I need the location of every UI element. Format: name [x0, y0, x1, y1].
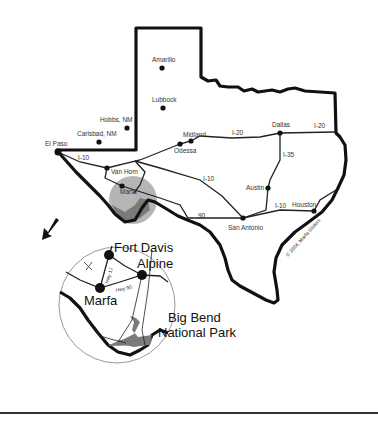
zoom-arrow-icon: [42, 218, 59, 240]
label-carlsbad: Carlsbad, NM: [77, 130, 117, 137]
label-i20-east: I-20: [314, 122, 326, 129]
label-amarillo: Amarillo: [152, 56, 176, 63]
label-hwy90: 90: [198, 212, 206, 219]
park-label-line2: National Park: [158, 325, 237, 340]
label-i10-east: I-10: [275, 202, 287, 209]
label-austin: Austin: [246, 184, 264, 191]
inset-label-marfa: Marfa: [84, 293, 118, 308]
label-midland: Midland: [183, 131, 206, 138]
label-i10-west: I-10: [78, 154, 90, 161]
bottom-rule: [0, 412, 378, 414]
inset-label-alpine: Alpine: [137, 256, 173, 271]
city-dot-fort-davis: [104, 250, 114, 260]
label-hobbs: Hobbs, NM: [100, 116, 133, 123]
label-houston: Houston: [292, 201, 317, 208]
i10-west-road: [58, 144, 180, 168]
texas-map: Amarillo Lubbock Hobbs, NM Carlsbad, NM …: [0, 0, 378, 422]
label-san-antonio: San Antonio: [228, 224, 263, 231]
park-label-line1: Big Bend: [168, 310, 221, 325]
label-i35: I-35: [283, 151, 295, 158]
city-dot-alpine: [137, 270, 147, 280]
label-marfa: Marfa: [120, 188, 137, 195]
label-odessa: Odessa: [174, 147, 197, 154]
label-lubbock: Lubbock: [152, 96, 177, 103]
city-dot-marfa-inset: [95, 283, 105, 293]
label-i10-central: I-10: [203, 175, 215, 182]
inset-label-fort-davis: Fort Davis: [114, 240, 174, 255]
label-dallas: Dallas: [272, 121, 291, 128]
label-van-horn: Van Horn: [111, 168, 138, 175]
label-el-paso: El Paso: [45, 140, 68, 147]
label-i20-west: I-20: [232, 129, 244, 136]
